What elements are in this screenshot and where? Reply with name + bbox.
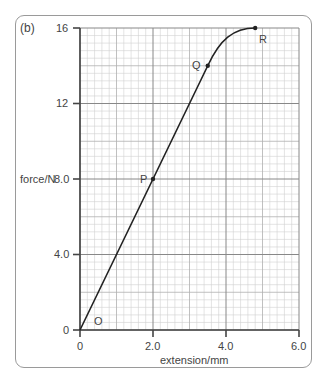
y-tick-16: 16	[56, 23, 68, 34]
y-tick-12: 12	[56, 98, 68, 109]
point-label-p: P	[140, 174, 147, 185]
chart-plot	[0, 0, 323, 383]
y-tick-4: 4.0	[54, 249, 69, 260]
y-tick-0: 0	[63, 325, 69, 336]
x-axis-label: extension/mm	[160, 355, 228, 366]
x-tick-4: 4.0	[218, 341, 233, 352]
point-p	[151, 177, 155, 181]
point-label-o: O	[94, 316, 103, 327]
point-label-r: R	[259, 34, 267, 45]
y-tick-8: 8.0	[54, 174, 69, 185]
x-tick-2: 2.0	[145, 341, 160, 352]
y-axis-label: force/N	[20, 174, 55, 185]
point-label-q: Q	[192, 60, 201, 71]
point-r	[253, 26, 257, 30]
x-tick-6: 6.0	[291, 341, 306, 352]
panel-label: (b)	[20, 22, 35, 34]
point-q	[206, 64, 210, 68]
x-tick-0: 0	[77, 341, 83, 352]
